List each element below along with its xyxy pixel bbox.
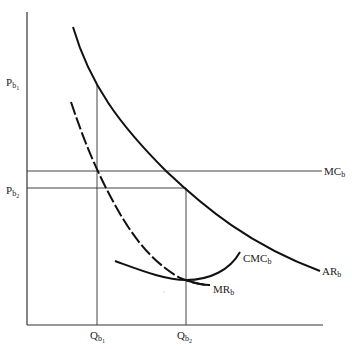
mr-curve [71,102,210,285]
mc-label: MCb [324,165,345,179]
scan-speck [163,291,165,293]
qb1-label: Qb1 [90,329,105,344]
pb1-label: Pb1 [6,76,19,91]
cmc-label: CMCb [243,252,271,266]
ar-curve [73,27,320,271]
ar-label: ARb [322,265,341,279]
qb2-label: Qb2 [177,329,192,344]
cmc-curve [115,252,240,280]
economics-diagram: Pb1 Pb2 Qb1 Qb2 MCb ARb CMCb MRb [0,0,352,349]
mr-label: MRb [213,283,234,297]
pb2-label: Pb2 [6,184,19,199]
